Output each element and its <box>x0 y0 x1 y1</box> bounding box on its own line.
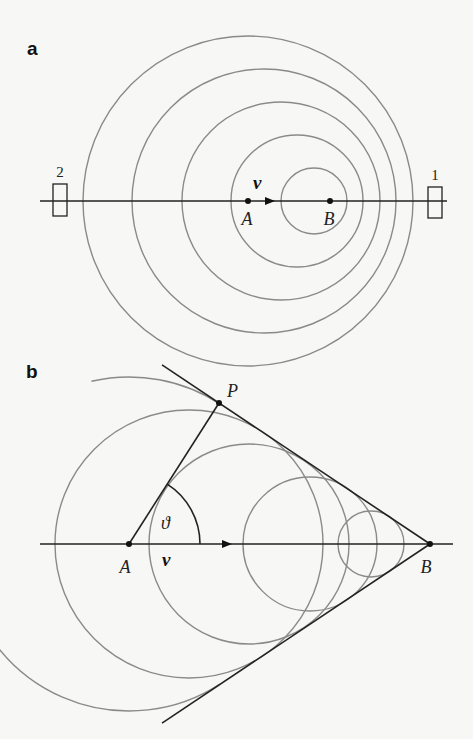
panel-b: b ϑ v AB P <box>0 361 453 723</box>
figure-canvas: a 21 v AB b ϑ v AB P <box>0 0 473 739</box>
panel-b-label: b <box>26 361 38 382</box>
velocity-arrow-icon-a <box>265 197 275 205</box>
point-P-label: P <box>226 381 238 401</box>
point-B <box>327 198 333 204</box>
velocity-label-a: v <box>253 172 262 193</box>
source-points-a: AB <box>241 198 335 229</box>
point-A-label: A <box>119 557 132 577</box>
point-A <box>245 198 251 204</box>
segment-A-P <box>129 403 219 544</box>
point-B <box>427 541 433 547</box>
point-A <box>126 541 132 547</box>
mach-cone-upper <box>162 365 430 544</box>
mach-cone-lower <box>162 544 430 723</box>
point-A-label: A <box>241 209 254 229</box>
panel-a-label: a <box>27 38 38 59</box>
point-B-label: B <box>324 209 335 229</box>
velocity-label-b: v <box>162 549 171 570</box>
point-B-label: B <box>421 557 432 577</box>
detector-1 <box>428 187 442 218</box>
detector-2 <box>53 184 67 216</box>
angle-arc-theta <box>167 484 200 544</box>
detector-label-1: 1 <box>431 167 439 183</box>
panel-a: a 21 v AB <box>27 36 447 366</box>
point-P <box>216 400 222 406</box>
angle-label-theta: ϑ <box>161 513 171 533</box>
detector-label-2: 2 <box>56 164 64 180</box>
velocity-arrow-icon-b <box>222 540 232 548</box>
